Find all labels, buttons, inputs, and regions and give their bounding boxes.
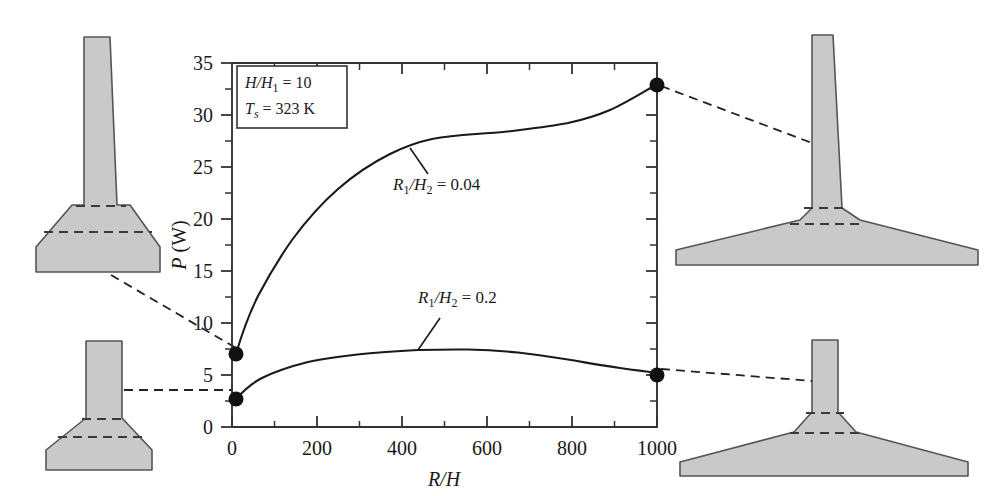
leader-top-left	[111, 275, 236, 348]
y-axis-title-symbol: P	[168, 257, 190, 270]
curve-label-lower: R1/H2 = 0.2	[417, 288, 497, 310]
x-tick-label-1000: 1000	[637, 437, 677, 459]
leader-bottom-right	[661, 369, 812, 381]
y-tick-label-35: 35	[193, 52, 213, 74]
y-tick-label-5: 5	[203, 364, 213, 386]
leader-lines	[111, 86, 812, 390]
figure-root: H/H1 = 10 Ts = 323 K R1/H2 = 0.04 R1/H2 …	[0, 0, 998, 496]
curve-label-upper-mid: /H	[408, 175, 428, 194]
x-tick-label-800: 800	[557, 437, 587, 459]
y-tick-label-10: 10	[193, 312, 213, 334]
annotation-line-1-main: H/H	[244, 74, 274, 91]
y-axis-title-unit: (W)	[168, 220, 191, 257]
x-tick-label-600: 600	[472, 437, 502, 459]
y-tick-label-15: 15	[193, 260, 213, 282]
y-axis-title: P (W)	[168, 220, 191, 270]
y-tick-label-0: 0	[203, 416, 213, 438]
fin-top-right	[676, 35, 978, 265]
fin-bottom-right	[680, 340, 968, 476]
x-axis-title: R/H	[427, 468, 462, 490]
y-tick-label-30: 30	[193, 104, 213, 126]
fin-top-left	[36, 37, 160, 272]
curve-label-upper-tail: = 0.04	[432, 175, 480, 194]
curve-label-lower-mid: /H	[433, 288, 453, 307]
leader-top-right	[661, 86, 812, 143]
annotation-line-1-tail: = 10	[279, 74, 312, 91]
x-tick-labels: 0 200 400 600 800 1000	[227, 437, 677, 459]
x-tick-label-200: 200	[302, 437, 332, 459]
figure-canvas: H/H1 = 10 Ts = 323 K R1/H2 = 0.04 R1/H2 …	[0, 0, 998, 496]
fin-bottom-left	[46, 341, 152, 470]
annotation-line-2-tail: = 323 K	[259, 100, 316, 117]
x-tick-label-400: 400	[387, 437, 417, 459]
y-tick-labels: 0 5 10 15 20 25 30 35	[193, 52, 213, 438]
y-tick-label-20: 20	[193, 208, 213, 230]
y-tick-label-25: 25	[193, 156, 213, 178]
curve-label-upper: R1/H2 = 0.04	[392, 175, 481, 197]
curve-label-lower-main: R	[417, 288, 429, 307]
series-lower-curve	[229, 349, 665, 406]
x-tick-label-0: 0	[227, 437, 237, 459]
curve-label-lower-tail: = 0.2	[457, 288, 496, 307]
curve-label-upper-main: R	[392, 175, 404, 194]
